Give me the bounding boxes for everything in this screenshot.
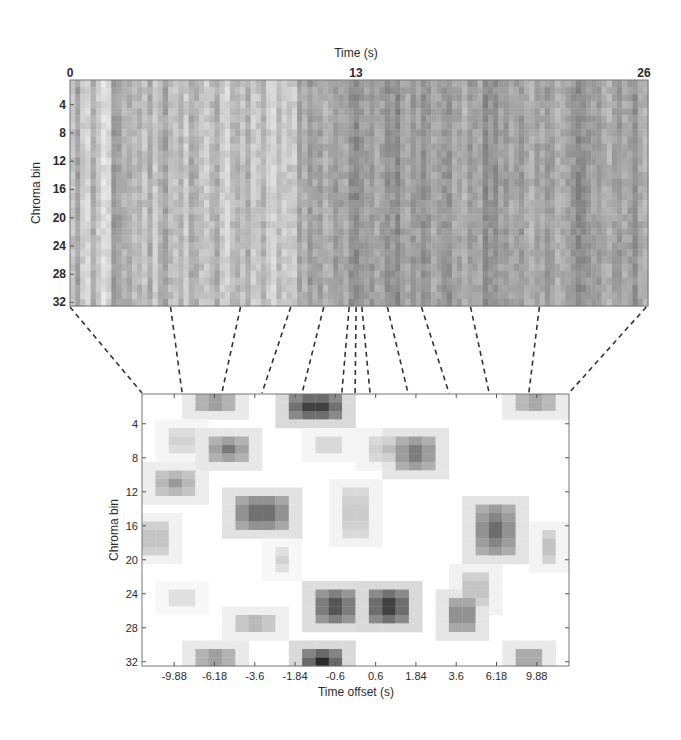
chromagram-cell <box>390 250 396 257</box>
chromagram-cell <box>617 292 623 299</box>
chromagram-cell <box>514 115 520 122</box>
patch-cell <box>249 632 263 641</box>
chromagram-cell <box>158 108 164 115</box>
chromagram-cell <box>421 94 427 101</box>
patch-cell <box>462 505 476 514</box>
chromagram-cell <box>576 122 582 129</box>
chromagram-cell <box>147 115 153 122</box>
chromagram-cell <box>240 250 246 257</box>
chromagram-cell <box>622 158 628 165</box>
chromagram-cell <box>256 172 262 179</box>
chromagram-cell <box>509 235 515 242</box>
chromagram-cell <box>555 257 561 264</box>
chromagram-cell <box>467 165 473 172</box>
bottom-x-tick-label: -9.88 <box>162 670 187 682</box>
chromagram-cell <box>287 257 293 264</box>
chromagram-cell <box>519 264 525 271</box>
chromagram-cell <box>452 242 458 249</box>
chromagram-cell <box>318 292 324 299</box>
chromagram-cell <box>338 137 344 144</box>
chromagram-cell <box>235 108 241 115</box>
chromagram-cell <box>354 151 360 158</box>
patch-cell <box>342 590 356 599</box>
chromagram-cell <box>442 221 448 228</box>
chromagram-cell <box>483 278 489 285</box>
chromagram-cell <box>400 235 406 242</box>
chromagram-cell <box>189 221 195 228</box>
chromagram-cell <box>307 264 313 271</box>
chromagram-cell <box>178 264 184 271</box>
chromagram-cell <box>338 108 344 115</box>
chromagram-cell <box>173 179 179 186</box>
chromagram-cell <box>344 165 350 172</box>
chromagram-cell <box>374 207 380 214</box>
chromagram-cell <box>550 87 556 94</box>
chromagram-cell <box>519 235 525 242</box>
chromagram-cell <box>204 101 210 108</box>
chromagram-cell <box>421 207 427 214</box>
chromagram-cell <box>168 299 174 306</box>
chromagram-cell <box>374 235 380 242</box>
chromagram-cell <box>266 101 272 108</box>
patch-cell <box>275 632 289 641</box>
chromagram-cell <box>184 235 190 242</box>
patch-cell <box>382 445 396 454</box>
chromagram-cell <box>75 186 81 193</box>
chromagram-cell <box>127 144 133 151</box>
chromagram-cell <box>529 250 535 257</box>
patch-cell <box>262 624 276 633</box>
patch-cell <box>329 539 343 548</box>
patch-cell <box>289 641 303 650</box>
patch-cell <box>289 530 303 539</box>
chromagram-cell <box>215 129 221 136</box>
patch-cell <box>169 530 183 539</box>
chromagram-cell <box>127 271 133 278</box>
patch-cell <box>436 428 450 437</box>
patch-cell <box>489 496 503 505</box>
chromagram-cell <box>627 235 633 242</box>
chromagram-cell <box>240 257 246 264</box>
chromagram-cell <box>395 264 401 271</box>
chromagram-cell <box>622 94 628 101</box>
chromagram-cell <box>452 94 458 101</box>
chromagram-cell <box>462 172 468 179</box>
chromagram-cell <box>540 200 546 207</box>
chromagram-cell <box>617 214 623 221</box>
chromagram-cell <box>426 264 432 271</box>
chromagram-cell <box>240 186 246 193</box>
chromagram-cell <box>178 299 184 306</box>
chromagram-cell <box>91 299 97 306</box>
chromagram-cell <box>80 271 86 278</box>
chromagram-cell <box>261 186 267 193</box>
chromagram-cell <box>405 250 411 257</box>
chromagram-cell <box>411 200 417 207</box>
chromagram-cell <box>359 137 365 144</box>
chromagram-cell <box>153 214 159 221</box>
chromagram-cell <box>142 179 148 186</box>
chromagram-cell <box>106 271 112 278</box>
chromagram-cell <box>106 292 112 299</box>
chromagram-cell <box>545 101 551 108</box>
chromagram-cell <box>540 271 546 278</box>
chromagram-cell <box>307 94 313 101</box>
chromagram-cell <box>602 172 608 179</box>
chromagram-cell <box>302 250 308 257</box>
chromagram-cell <box>158 80 164 87</box>
patch-cell <box>222 522 236 531</box>
chromagram-cell <box>75 250 81 257</box>
chromagram-cell <box>400 228 406 235</box>
chromagram-cell <box>591 257 597 264</box>
chromagram-cell <box>111 101 117 108</box>
chromagram-cell <box>344 186 350 193</box>
chromagram-cell <box>287 271 293 278</box>
chromagram-cell <box>545 264 551 271</box>
chromagram-cell <box>147 200 153 207</box>
chromagram-cell <box>617 87 623 94</box>
patch-cell <box>476 513 490 522</box>
chromagram-cell <box>349 122 355 129</box>
chromagram-cell <box>344 179 350 186</box>
chromagram-cell <box>359 250 365 257</box>
chromagram-cell <box>101 285 107 292</box>
chromagram-cell <box>266 214 272 221</box>
chromagram-cell <box>359 122 365 129</box>
